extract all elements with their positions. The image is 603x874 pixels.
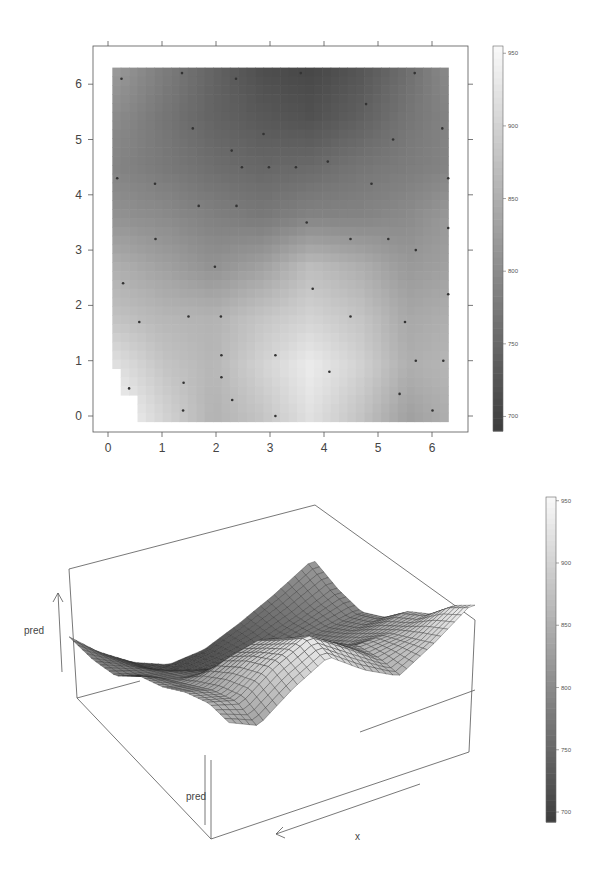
colorbar-tick-label: 800	[561, 685, 572, 691]
data-point	[415, 359, 418, 362]
data-point	[398, 393, 401, 396]
data-point	[349, 238, 352, 241]
colorbar-tick-label: 950	[508, 50, 519, 56]
data-point	[349, 315, 352, 318]
x-axis-arrow	[276, 784, 420, 838]
colorbar-tick-label: 900	[561, 560, 572, 566]
colorbar-tick-label: 700	[508, 413, 519, 419]
data-point	[122, 282, 125, 285]
colorbar-tick-label: 800	[508, 268, 519, 274]
data-point	[300, 72, 303, 75]
data-point	[295, 166, 298, 169]
data-point	[138, 321, 141, 324]
data-point	[181, 72, 184, 75]
data-point	[182, 382, 185, 385]
x-tick-label: 5	[375, 441, 382, 455]
x-tick-label: 0	[105, 441, 112, 455]
data-point	[370, 182, 373, 185]
x-axis-label: x	[355, 831, 360, 842]
data-point	[220, 315, 223, 318]
data-point	[404, 321, 407, 324]
colorbar-tick-label: 750	[561, 747, 572, 753]
data-point	[154, 182, 157, 185]
data-point	[415, 249, 418, 252]
data-point	[392, 138, 395, 141]
data-point	[220, 376, 223, 379]
data-point	[192, 127, 195, 130]
x-tick-label: 4	[321, 441, 328, 455]
y-tick-label: 5	[75, 133, 82, 147]
data-point	[327, 160, 330, 163]
pred-front-label: pred	[186, 791, 206, 802]
data-point	[305, 221, 308, 224]
data-point	[447, 177, 450, 180]
colorbar-tick-label: 850	[508, 196, 519, 202]
data-point	[241, 166, 244, 169]
data-point	[231, 399, 234, 402]
data-point	[387, 238, 390, 241]
colorbar-top: 700750800850900950	[493, 46, 519, 432]
x-tick-label: 1	[159, 441, 166, 455]
data-point	[328, 371, 331, 374]
data-point	[447, 293, 450, 296]
colorbar-tick-label: 750	[508, 341, 519, 347]
surface-mesh	[69, 561, 475, 725]
data-point	[235, 77, 238, 80]
data-point	[197, 205, 200, 208]
data-point	[311, 288, 314, 291]
y-tick-label: 1	[75, 354, 82, 368]
pred-axis-label: pred	[24, 625, 44, 636]
colorbar-tick-label: 900	[508, 123, 519, 129]
data-point	[235, 205, 238, 208]
data-point	[230, 149, 233, 152]
data-point	[116, 177, 119, 180]
heatmap-panel: 0123456 0123456 700750800850900950	[75, 41, 518, 455]
data-point	[220, 354, 223, 357]
data-point	[120, 77, 123, 80]
data-point	[187, 315, 190, 318]
colorbar-tick-label: 950	[561, 498, 572, 504]
heatmap-cells	[112, 68, 448, 423]
surface-panel: pred pred x 700750800850900950	[24, 497, 572, 842]
figure: 0123456 0123456 700750800850900950	[0, 0, 603, 874]
data-point	[268, 166, 271, 169]
colorbar-bottom: 700750800850900950	[546, 497, 572, 823]
data-point	[128, 387, 131, 390]
y-tick-label: 6	[75, 77, 82, 91]
data-point	[154, 238, 157, 241]
data-point	[413, 72, 416, 75]
colorbar-tick-label: 850	[561, 622, 572, 628]
colorbar-tick-label: 700	[561, 809, 572, 815]
data-point	[447, 227, 450, 230]
data-point	[214, 265, 217, 268]
pred-axis-arrow	[53, 593, 63, 672]
x-tick-label: 6	[429, 441, 436, 455]
y-tick-label: 0	[75, 409, 82, 423]
data-point	[441, 127, 444, 130]
y-tick-label: 4	[75, 188, 82, 202]
data-point	[431, 409, 434, 412]
data-point	[262, 133, 265, 136]
data-point	[274, 354, 277, 357]
x-tick-label: 2	[213, 441, 220, 455]
data-point	[442, 359, 445, 362]
data-point	[274, 415, 277, 418]
data-point	[182, 409, 185, 412]
data-point	[365, 103, 368, 106]
y-tick-label: 3	[75, 243, 82, 257]
x-tick-label: 3	[267, 441, 274, 455]
y-tick-label: 2	[75, 298, 82, 312]
